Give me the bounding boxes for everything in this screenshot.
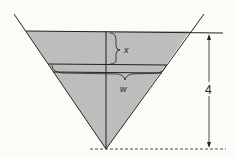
x-label: x [123, 45, 129, 55]
w-label: w [120, 84, 127, 94]
water-region [26, 31, 190, 149]
height-label: 4 [205, 83, 212, 97]
arrow-down [207, 142, 211, 148]
arrow-up [207, 34, 211, 40]
trough-diagram: x w 4 [0, 0, 235, 157]
